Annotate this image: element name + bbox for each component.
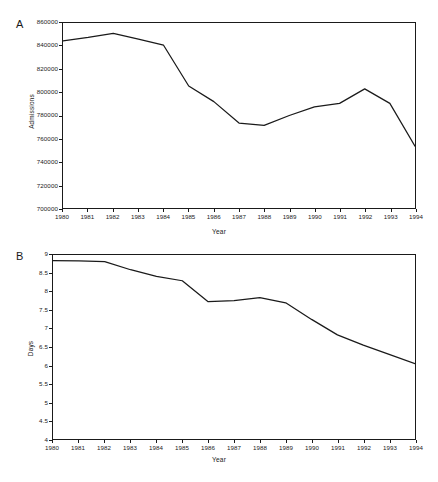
plot-area-b xyxy=(52,254,416,440)
x-tick-mark xyxy=(138,209,139,212)
line-series-b xyxy=(53,255,415,439)
x-tick-label: 1986 xyxy=(201,213,227,220)
y-tick-label: 860000 xyxy=(18,19,58,25)
x-tick-mark xyxy=(290,209,291,212)
y-tick-mark xyxy=(59,139,62,140)
y-tick-mark xyxy=(49,291,52,292)
x-tick-mark xyxy=(163,209,164,212)
x-tick-label: 1987 xyxy=(221,444,247,451)
x-tick-mark xyxy=(113,209,114,212)
y-tick-mark xyxy=(49,328,52,329)
y-tick-mark xyxy=(59,92,62,93)
panel-b: B 44.555.566.577.588.59 1980198119821983… xyxy=(0,240,438,465)
x-tick-mark xyxy=(264,209,265,212)
y-tick-label: 780000 xyxy=(18,112,58,118)
x-tick-mark xyxy=(260,440,261,443)
panel-a: A 70000072000074000076000078000080000082… xyxy=(0,0,438,240)
x-tick-mark xyxy=(390,440,391,443)
x-tick-mark xyxy=(208,440,209,443)
x-tick-mark xyxy=(286,440,287,443)
x-tick-label: 1980 xyxy=(49,213,75,220)
y-tick-mark xyxy=(59,116,62,117)
x-tick-label: 1988 xyxy=(247,444,273,451)
x-tick-mark xyxy=(62,209,63,212)
y-tick-mark xyxy=(49,421,52,422)
y-axis-label-a: Admissions xyxy=(28,77,35,147)
x-tick-mark xyxy=(188,209,189,212)
y-tick-label: 840000 xyxy=(18,42,58,48)
x-tick-mark xyxy=(364,440,365,443)
x-tick-label: 1991 xyxy=(325,444,351,451)
x-tick-label: 1989 xyxy=(273,444,299,451)
figure-two-panel-line-charts: A 70000072000074000076000078000080000082… xyxy=(0,0,438,482)
x-tick-mark xyxy=(52,440,53,443)
y-tick-mark xyxy=(59,69,62,70)
x-tick-label: 1993 xyxy=(377,444,403,451)
x-tick-label: 1993 xyxy=(378,213,404,220)
figure-caption xyxy=(18,472,428,482)
y-tick-mark xyxy=(49,347,52,348)
x-tick-mark xyxy=(338,440,339,443)
y-tick-label: 4 xyxy=(22,437,48,443)
x-tick-label: 1991 xyxy=(327,213,353,220)
y-tick-label: 800000 xyxy=(18,89,58,95)
y-tick-label: 5.5 xyxy=(22,381,48,387)
x-tick-label: 1987 xyxy=(226,213,252,220)
y-tick-mark xyxy=(49,384,52,385)
x-tick-mark xyxy=(234,440,235,443)
y-axis-label-b: Days xyxy=(27,319,34,379)
x-tick-mark xyxy=(130,440,131,443)
y-tick-mark xyxy=(49,273,52,274)
x-tick-mark xyxy=(87,209,88,212)
y-tick-mark xyxy=(49,366,52,367)
y-tick-mark xyxy=(49,310,52,311)
x-tick-mark xyxy=(78,440,79,443)
x-tick-label: 1988 xyxy=(251,213,277,220)
y-tick-label: 740000 xyxy=(18,159,58,165)
x-tick-mark xyxy=(315,209,316,212)
plot-area-a xyxy=(62,22,416,209)
x-tick-label: 1983 xyxy=(117,444,143,451)
x-tick-label: 1982 xyxy=(91,444,117,451)
x-tick-mark xyxy=(214,209,215,212)
y-tick-mark xyxy=(59,22,62,23)
y-tick-mark xyxy=(59,186,62,187)
y-tick-label: 9 xyxy=(22,251,48,257)
x-tick-label: 1980 xyxy=(39,444,65,451)
y-tick-label: 720000 xyxy=(18,183,58,189)
y-tick-label: 700000 xyxy=(18,206,58,212)
x-tick-label: 1986 xyxy=(195,444,221,451)
x-tick-label: 1990 xyxy=(299,444,325,451)
y-tick-mark xyxy=(49,403,52,404)
x-tick-label: 1989 xyxy=(277,213,303,220)
x-tick-label: 1985 xyxy=(175,213,201,220)
y-tick-label: 7.5 xyxy=(22,307,48,313)
y-tick-mark xyxy=(49,254,52,255)
x-tick-label: 1981 xyxy=(65,444,91,451)
x-tick-label: 1992 xyxy=(351,444,377,451)
x-tick-label: 1984 xyxy=(143,444,169,451)
x-tick-mark xyxy=(365,209,366,212)
x-tick-mark xyxy=(416,440,417,443)
y-tick-label: 8.5 xyxy=(22,270,48,276)
y-tick-label: 5 xyxy=(22,400,48,406)
y-tick-label: 8 xyxy=(22,288,48,294)
x-axis-label-a: Year xyxy=(0,228,438,235)
x-tick-label: 1983 xyxy=(125,213,151,220)
x-tick-mark xyxy=(156,440,157,443)
line-series-a xyxy=(63,23,415,208)
y-tick-label: 4.5 xyxy=(22,418,48,424)
x-tick-mark xyxy=(239,209,240,212)
x-tick-label: 1994 xyxy=(403,213,429,220)
x-tick-mark xyxy=(416,209,417,212)
y-tick-mark xyxy=(59,162,62,163)
x-tick-label: 1985 xyxy=(169,444,195,451)
y-tick-label: 760000 xyxy=(18,136,58,142)
x-tick-mark xyxy=(104,440,105,443)
x-tick-label: 1982 xyxy=(100,213,126,220)
x-tick-label: 1981 xyxy=(74,213,100,220)
x-tick-mark xyxy=(340,209,341,212)
y-tick-label: 820000 xyxy=(18,66,58,72)
x-axis-label-b: Year xyxy=(0,456,438,463)
x-tick-label: 1990 xyxy=(302,213,328,220)
